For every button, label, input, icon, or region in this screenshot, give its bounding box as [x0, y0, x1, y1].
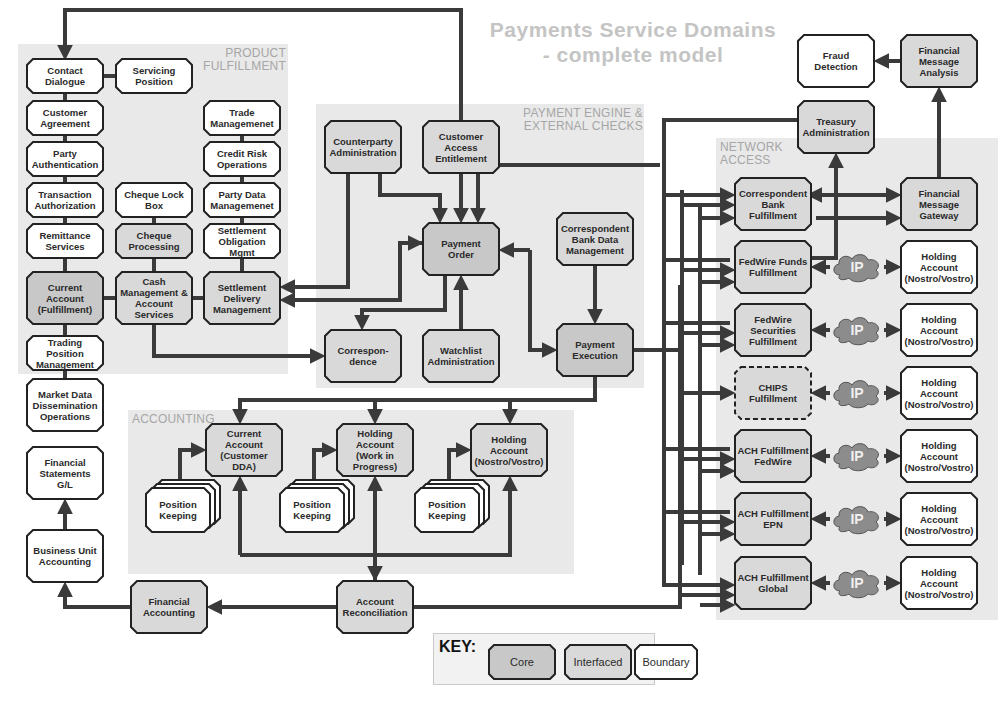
node-label: Transaction Authorization — [34, 189, 95, 211]
node-label: Current Account (Customer DDA) — [208, 428, 280, 472]
legend-item-label: Boundary — [642, 657, 689, 668]
node-label: Trade Managemenet — [210, 107, 273, 129]
node-account-reconciliation: Account Reconciliation — [336, 580, 414, 634]
ip-cloud-icon: IP — [830, 251, 884, 283]
node-contact-dialogue: Contact Dialogue — [26, 58, 104, 94]
node-label: Holding Account (Work in Progress) — [339, 428, 411, 472]
ip-label: IP — [850, 325, 863, 336]
node-label: Cash Management & Account Services — [120, 276, 188, 320]
node-treasury-administration: Treasury Administration — [797, 100, 875, 154]
node-correspondence: Correspon- dence — [324, 329, 402, 383]
legend-item-label: Core — [510, 657, 534, 668]
connector-line — [380, 174, 440, 218]
node-label: Market Data Dissemination Operations — [33, 389, 98, 422]
node-label: Position Keeping — [293, 499, 330, 521]
node-fraud-detection: Fraud Detection — [797, 34, 875, 88]
node-label: FedWire Securities Fulfillment — [749, 314, 797, 347]
node-label: Customer Access Entitlement — [435, 131, 487, 164]
node-holding-account-nv-3: Holding Account (Nostro/Vostro) — [900, 366, 978, 420]
connector-line — [285, 243, 422, 300]
node-label: Holding Account (Nostro/Vostro) — [905, 314, 974, 347]
node-label: Remittance Services — [39, 230, 90, 252]
node-cash-management: Cash Management & Account Services — [115, 271, 193, 325]
connector-line — [240, 377, 595, 419]
node-label: Party Data Managemenet — [210, 189, 273, 211]
node-counterparty-administration: Counterparty Administration — [324, 120, 402, 174]
node-position-keeping-2: Position Keeping — [279, 487, 345, 533]
node-label: Position Keeping — [428, 499, 465, 521]
node-ach-fulfillment-global: ACH Fulfillment Global — [734, 556, 812, 610]
node-cheque-processing: Cheque Processing — [115, 223, 193, 259]
node-current-account-fulfillment: Current Account (Fulfillment) — [26, 271, 104, 325]
node-label: Trading Position Management — [29, 337, 101, 370]
ip-label: IP — [850, 451, 863, 462]
node-label: CHIPS Fulfillment — [749, 382, 797, 404]
node-label: Credit Risk Operations — [217, 148, 267, 170]
node-financial-message-analysis: Financial Message Analysis — [900, 34, 978, 88]
node-label: Holding Account (Nostro/Vostro) — [905, 440, 974, 473]
node-party-authentication: Party Authentication — [26, 141, 104, 177]
ip-cloud-icon: IP — [830, 440, 884, 472]
node-label: Holding Account (Nostro/Vostro) — [905, 377, 974, 410]
node-label: Fraud Detection — [800, 50, 872, 72]
node-business-unit-accounting: Business Unit Accounting — [26, 529, 104, 583]
node-credit-risk-operations: Credit Risk Operations — [203, 141, 281, 177]
node-label: ACH Fulfillment EPN — [737, 508, 808, 530]
node-position-keeping-1: Position Keeping — [145, 487, 211, 533]
node-fedwire-funds-fulfillment: FedWire Funds Fulfillment — [734, 240, 812, 294]
node-label: Financial Message Gateway — [918, 188, 959, 221]
node-holding-account-wip: Holding Account (Work in Progress) — [336, 423, 414, 477]
node-label: Financial Message Analysis — [918, 45, 959, 78]
legend-key: KEY: CoreInterfacedBoundary — [433, 633, 655, 685]
node-customer-agreement: Customer Agreement — [26, 100, 104, 136]
node-correspondent-bank-fulfillment: Correspondent Bank Fulfillment — [734, 177, 812, 231]
node-customer-access-entitlement: Customer Access Entitlement — [422, 120, 500, 174]
legend-item-label: Interfaced — [574, 657, 623, 668]
node-settlement-delivery-management: Settlement Delivery Management — [203, 271, 281, 325]
node-trading-position-management: Trading Position Management — [26, 335, 104, 371]
node-ach-fulfillment-epn: ACH Fulfillment EPN — [734, 492, 812, 546]
node-payment-order: Payment Order — [422, 222, 500, 276]
node-label: Holding Account (Nostro/Vostro) — [475, 434, 544, 467]
node-label: FedWire Funds Fulfillment — [739, 256, 808, 278]
node-label: Payment Order — [441, 238, 481, 260]
node-label: Account Reconciliation — [343, 596, 408, 618]
node-holding-account-nv-6: Holding Account (Nostro/Vostro) — [900, 556, 978, 610]
node-label: Contact Dialogue — [45, 65, 85, 87]
connector-line — [285, 174, 348, 287]
node-label: Business Unit Accounting — [33, 545, 96, 567]
node-label: Correspon- dence — [337, 345, 388, 367]
node-label: Holding Account (Nostro/Vostro) — [905, 251, 974, 284]
legend-item-interfaced: Interfaced — [564, 644, 632, 680]
node-label: Party Authentication — [32, 148, 99, 170]
node-label: Correspondent Bank Fulfillment — [739, 188, 807, 221]
node-label: Correspondent Bank Data Management — [561, 223, 629, 256]
node-holding-account-nv-2: Holding Account (Nostro/Vostro) — [900, 303, 978, 357]
ip-label: IP — [850, 388, 863, 399]
node-label: Watchlist Administration — [427, 345, 494, 367]
node-ach-fulfillment-fedwire: ACH Fulfillment FedWire — [734, 429, 812, 483]
connector-line — [478, 165, 660, 218]
node-correspondent-bank-data-management: Correspondent Bank Data Management — [556, 212, 634, 266]
connector-line — [65, 587, 130, 607]
legend-item-boundary: Boundary — [634, 644, 698, 680]
node-label: Financial Statements G/L — [39, 457, 90, 490]
node-label: Counterparty Administration — [329, 136, 396, 158]
ip-label: IP — [850, 578, 863, 589]
node-market-data-dissemination: Market Data Dissemination Operations — [26, 378, 104, 432]
node-label: Cheque Processing — [128, 230, 179, 252]
node-chips-fulfillment: CHIPS Fulfillment — [734, 366, 812, 420]
node-fedwire-securities-fulfillment: FedWire Securities Fulfillment — [734, 303, 812, 357]
node-label: Settlement Delivery Management — [213, 282, 271, 315]
node-party-data-management: Party Data Managemenet — [203, 182, 281, 218]
node-holding-account-nv-4: Holding Account (Nostro/Vostro) — [900, 429, 978, 483]
node-label: Customer Agreement — [40, 107, 90, 129]
node-label: Settlement Obligation Mgmt — [206, 225, 278, 258]
ip-cloud-icon: IP — [830, 567, 884, 599]
node-holding-account-nv-acct: Holding Account (Nostro/Vostro) — [470, 423, 548, 477]
node-label: Payment Execution — [572, 339, 617, 361]
ip-cloud-icon: IP — [830, 314, 884, 346]
node-label: Financial Accounting — [143, 596, 195, 618]
node-transaction-authorization: Transaction Authorization — [26, 182, 104, 218]
node-label: Holding Account (Nostro/Vostro) — [905, 567, 974, 600]
